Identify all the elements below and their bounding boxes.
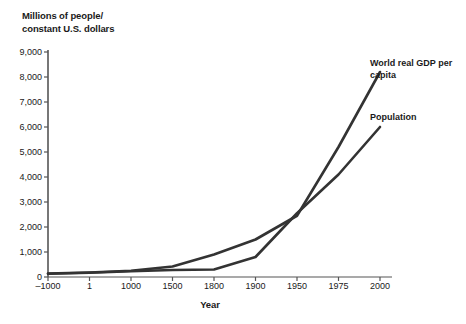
series-lines <box>48 72 380 274</box>
x-axis-title: Year <box>0 299 420 312</box>
plot-area <box>0 0 466 324</box>
axis-lines <box>48 50 392 277</box>
series-line-world-real-gdp-per-capita <box>48 72 380 274</box>
series-line-population <box>48 127 380 274</box>
series-label-population: Population <box>370 111 466 123</box>
series-label-world-real-gdp-per-capita: World real GDP per capita <box>370 57 466 81</box>
chart-container: Millions of people/ constant U.S. dollar… <box>0 0 466 324</box>
